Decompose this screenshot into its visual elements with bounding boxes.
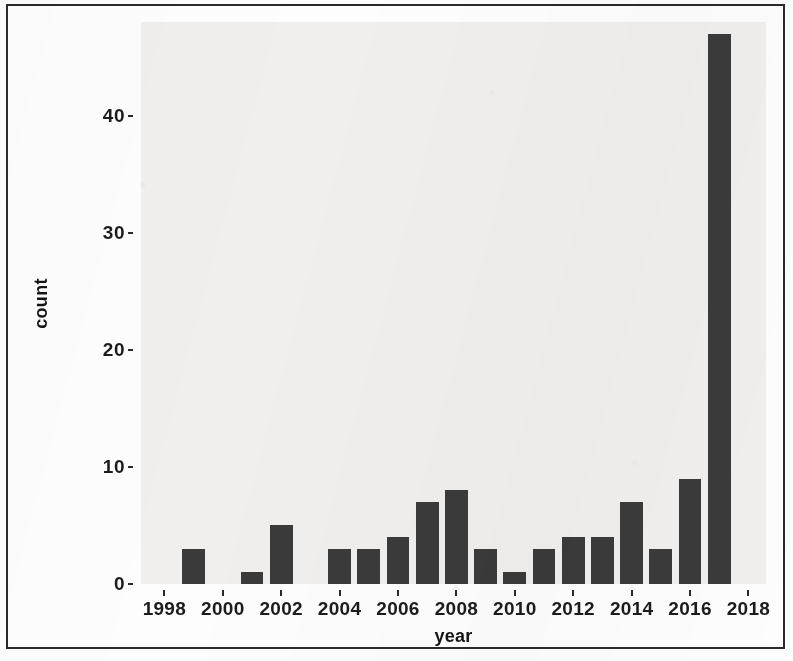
bar	[708, 34, 731, 584]
bar	[474, 549, 497, 584]
bar	[416, 502, 439, 584]
y-tick-label: 0	[114, 573, 125, 595]
bar	[241, 572, 264, 584]
plot-panel	[141, 22, 766, 584]
x-tick-mark	[747, 590, 749, 596]
y-tick-mark	[128, 583, 133, 585]
y-tick-label: 20	[103, 339, 125, 361]
bar	[562, 537, 585, 584]
y-axis: 010203040	[0, 22, 141, 584]
bar	[649, 549, 672, 584]
y-tick-label: 30	[103, 222, 125, 244]
x-tick-mark	[455, 590, 457, 596]
bar	[270, 525, 293, 584]
x-tick-mark	[572, 590, 574, 596]
x-tick-label: 2008	[435, 598, 478, 620]
figure-container: 010203040 count 199820002002200420062008…	[0, 0, 793, 661]
y-tick-mark	[128, 466, 133, 468]
bar	[503, 572, 526, 584]
bar	[445, 490, 468, 584]
bar	[357, 549, 380, 584]
bar	[182, 549, 205, 584]
x-tick-mark	[631, 590, 633, 596]
x-tick-mark	[280, 590, 282, 596]
y-axis-title: count	[30, 22, 52, 584]
x-tick-label: 2018	[727, 598, 770, 620]
x-tick-mark	[163, 590, 165, 596]
x-tick-label: 2016	[668, 598, 711, 620]
y-tick-mark	[128, 115, 133, 117]
bars-layer	[141, 22, 766, 584]
x-tick-mark	[689, 590, 691, 596]
y-tick-label: 40	[103, 105, 125, 127]
y-axis-title-label: count	[31, 278, 52, 329]
x-tick-label: 2000	[201, 598, 244, 620]
y-tick-mark	[128, 349, 133, 351]
x-tick-label: 2006	[376, 598, 419, 620]
x-tick-label: 1998	[143, 598, 186, 620]
y-tick-label: 10	[103, 456, 125, 478]
x-tick-label: 2002	[259, 598, 302, 620]
bar	[620, 502, 643, 584]
x-tick-mark	[514, 590, 516, 596]
x-axis: 1998200020022004200620082010201220142016…	[141, 584, 766, 624]
x-tick-label: 2004	[318, 598, 361, 620]
bar	[679, 479, 702, 584]
bar	[328, 549, 351, 584]
x-tick-mark	[339, 590, 341, 596]
x-tick-label: 2010	[493, 598, 536, 620]
y-tick-mark	[128, 232, 133, 234]
x-tick-label: 2012	[552, 598, 595, 620]
x-axis-title-label: year	[141, 626, 766, 647]
x-tick-mark	[397, 590, 399, 596]
x-tick-mark	[222, 590, 224, 596]
x-tick-label: 2014	[610, 598, 653, 620]
bar	[387, 537, 410, 584]
bar	[591, 537, 614, 584]
bar	[533, 549, 556, 584]
